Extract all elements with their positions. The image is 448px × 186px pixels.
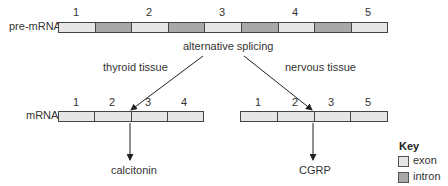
exon-segment <box>278 112 315 121</box>
mrna-exon-number: 1 <box>248 96 268 108</box>
mrna-exon-number: 2 <box>102 96 122 108</box>
thyroid-mrna-bar <box>58 111 204 122</box>
intron-swatch <box>398 172 409 183</box>
key-title: Key <box>399 140 419 152</box>
mrna-exon-number: 3 <box>321 96 341 108</box>
exon-segment <box>315 112 352 121</box>
calcitonin-label: calcitonin <box>111 164 157 176</box>
mrna-exon-number: 4 <box>174 96 194 108</box>
exon-segment <box>241 112 278 121</box>
exon-segment <box>168 112 203 121</box>
exon-segment <box>351 112 387 121</box>
mrna-exon-number: 1 <box>66 96 86 108</box>
cgrp-label: CGRP <box>299 164 331 176</box>
mrna-exon-number: 2 <box>285 96 305 108</box>
mrna-exon-number: 5 <box>358 96 378 108</box>
intron-key-label: intron <box>413 170 441 182</box>
mrna-label: mRNA <box>26 109 58 121</box>
exon-segment <box>59 112 95 121</box>
exon-segment <box>132 112 168 121</box>
nervous-tissue-label: nervous tissue <box>285 61 356 73</box>
mrna-exon-number: 3 <box>138 96 158 108</box>
exon-key-label: exon <box>413 154 437 166</box>
thyroid-tissue-label: thyroid tissue <box>103 61 168 73</box>
exon-swatch <box>398 156 409 167</box>
nervous-mrna-bar <box>240 111 388 122</box>
arrows <box>0 0 448 186</box>
exon-segment <box>95 112 131 121</box>
